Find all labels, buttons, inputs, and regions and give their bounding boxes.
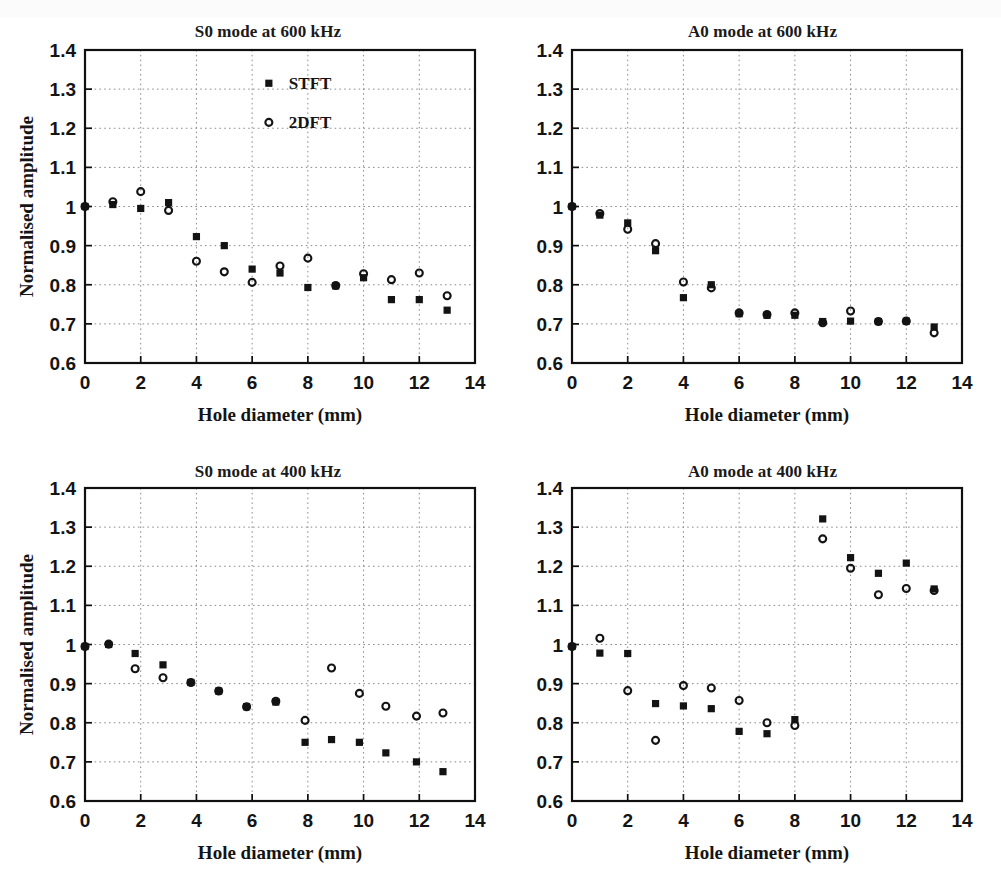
scatter-plot-s0-400: 0.60.70.80.911.11.21.31.402468101214Hole… xyxy=(0,476,500,888)
figure-sheet: S0 mode at 600 kHz 0.60.70.80.911.11.21.… xyxy=(0,0,1001,889)
x-tick-label: 0 xyxy=(80,810,91,831)
data-point-stft xyxy=(137,205,144,212)
cropped-caption-strip xyxy=(0,0,1001,18)
data-point-2dft xyxy=(328,664,335,671)
data-point-stft xyxy=(249,266,256,273)
y-axis-title: Normalised amplitude xyxy=(16,116,37,297)
data-point-stft xyxy=(624,650,631,657)
data-point-stft xyxy=(763,730,770,737)
data-point-stft xyxy=(708,705,715,712)
x-tick-label: 8 xyxy=(303,372,314,393)
x-tick-label: 0 xyxy=(567,810,578,831)
y-tick-label: 0.9 xyxy=(537,674,563,695)
data-point-stft xyxy=(159,661,166,668)
data-point-stft xyxy=(165,199,172,206)
data-point-stft xyxy=(847,318,854,325)
data-point-stft xyxy=(680,294,687,301)
data-point-stft xyxy=(193,233,200,240)
data-point-stft xyxy=(819,515,826,522)
data-point-2dft xyxy=(439,709,446,716)
data-point-2dft xyxy=(875,591,882,598)
y-tick-label: 1.3 xyxy=(537,79,563,100)
data-point-2dft xyxy=(903,585,910,592)
data-point-stft xyxy=(221,242,228,249)
y-tick-label: 1 xyxy=(552,197,563,218)
scatter-plot-s0-600: 0.60.70.80.911.11.21.31.402468101214Hole… xyxy=(0,36,500,451)
y-tick-label: 1.2 xyxy=(537,118,563,139)
x-tick-label: 12 xyxy=(896,372,917,393)
x-tick-label: 14 xyxy=(951,810,973,831)
y-tick-label: 0.6 xyxy=(537,353,563,374)
x-tick-label: 2 xyxy=(135,372,146,393)
y-tick-label: 0.9 xyxy=(50,674,76,695)
data-point-stft xyxy=(328,736,335,743)
y-tick-label: 0.9 xyxy=(50,236,76,257)
data-point-stft xyxy=(356,739,363,746)
data-point-2dft xyxy=(165,207,172,214)
data-point-2dft xyxy=(160,674,167,681)
x-tick-label: 2 xyxy=(622,372,633,393)
data-point-stft xyxy=(736,728,743,735)
x-tick-label: 8 xyxy=(790,372,801,393)
y-tick-label: 0.8 xyxy=(537,713,563,734)
data-point-stft xyxy=(413,758,420,765)
y-tick-label: 0.7 xyxy=(50,752,76,773)
plot-area-a0-600: 0.60.70.80.911.11.21.31.402468101214Hole… xyxy=(500,36,1000,451)
y-tick-label: 1.2 xyxy=(50,556,76,577)
y-tick-label: 1.4 xyxy=(537,478,564,499)
plot-area-a0-400: 0.60.70.80.911.11.21.31.402468101214Hole… xyxy=(500,476,1000,888)
y-tick-label: 1.3 xyxy=(50,517,76,538)
y-tick-label: 0.8 xyxy=(50,713,76,734)
data-point-stft xyxy=(596,650,603,657)
y-tick-label: 1.3 xyxy=(537,517,563,538)
x-axis-title: Hole diameter (mm) xyxy=(685,842,849,864)
x-tick-label: 14 xyxy=(951,372,973,393)
data-point-stft xyxy=(388,296,395,303)
data-point-2dft xyxy=(708,684,715,691)
x-tick-label: 4 xyxy=(191,372,202,393)
panel-s0-600: S0 mode at 600 kHz 0.60.70.80.911.11.21.… xyxy=(0,18,500,458)
y-tick-label: 1.4 xyxy=(537,40,564,61)
y-tick-label: 1 xyxy=(65,197,76,218)
scatter-plot-a0-600: 0.60.70.80.911.11.21.31.402468101214Hole… xyxy=(500,36,1000,451)
data-point-stft xyxy=(875,570,882,577)
legend-label-2dft: 2DFT xyxy=(289,113,332,132)
data-point-stft xyxy=(382,749,389,756)
x-axis-title: Hole diameter (mm) xyxy=(198,404,362,426)
legend-marker-2dft xyxy=(265,119,272,126)
x-tick-label: 6 xyxy=(247,372,258,393)
data-point-stft xyxy=(304,284,311,291)
data-point-stft xyxy=(132,650,139,657)
data-point-2dft xyxy=(356,690,363,697)
y-tick-label: 0.7 xyxy=(50,314,76,335)
data-point-2dft xyxy=(652,240,659,247)
plot-area-s0-400: 0.60.70.80.911.11.21.31.402468101214Hole… xyxy=(0,476,500,888)
y-tick-label: 1.1 xyxy=(537,595,564,616)
y-tick-label: 0.7 xyxy=(537,752,563,773)
x-tick-label: 6 xyxy=(247,810,258,831)
data-point-2dft xyxy=(444,292,451,299)
y-tick-label: 1.4 xyxy=(50,40,77,61)
x-tick-label: 0 xyxy=(567,372,578,393)
y-tick-label: 0.6 xyxy=(50,353,76,374)
data-point-2dft xyxy=(304,255,311,262)
y-tick-label: 0.8 xyxy=(50,275,76,296)
data-point-2dft xyxy=(416,270,423,277)
data-point-2dft xyxy=(388,276,395,283)
scatter-plot-a0-400: 0.60.70.80.911.11.21.31.402468101214Hole… xyxy=(500,476,1000,888)
data-point-stft xyxy=(416,296,423,303)
y-tick-label: 1 xyxy=(552,635,563,656)
panel-a0-400: A0 mode at 400 kHz 0.60.70.80.911.11.21.… xyxy=(500,458,1001,889)
legend-marker-stft xyxy=(265,80,272,87)
data-point-stft xyxy=(680,702,687,709)
data-point-stft xyxy=(652,700,659,707)
x-tick-label: 4 xyxy=(678,810,689,831)
x-axis-title: Hole diameter (mm) xyxy=(685,404,849,426)
data-point-2dft xyxy=(596,635,603,642)
y-tick-label: 0.8 xyxy=(537,275,563,296)
x-tick-label: 8 xyxy=(303,810,314,831)
data-point-2dft xyxy=(221,268,228,275)
x-tick-label: 2 xyxy=(622,810,633,831)
data-point-stft xyxy=(444,307,451,314)
y-tick-label: 1 xyxy=(65,635,76,656)
